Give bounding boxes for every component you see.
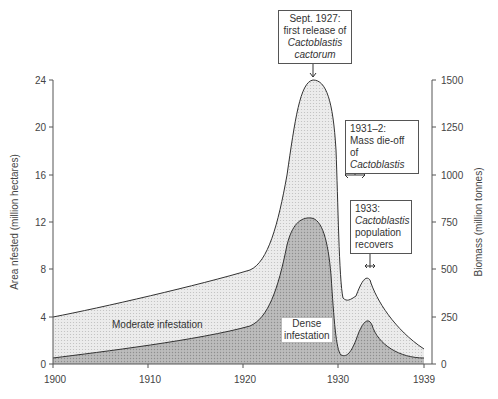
- release-line-1: Sept. 1927:: [283, 13, 347, 25]
- dieoff-annotation: 1931–2: Mass die-off of Cactoblastis: [345, 120, 419, 174]
- x-tick-1920: 1920: [234, 374, 257, 385]
- dieoff-line-2: Mass die-off: [350, 135, 414, 147]
- dense-label-line-1: Dense: [284, 318, 330, 330]
- release-line-2: first release of: [283, 25, 347, 37]
- y-tick-0: 0: [40, 359, 46, 370]
- y2-tick-750: 750: [441, 217, 458, 228]
- y2-tick-1000: 1000: [441, 170, 464, 181]
- recovery-arrow: [365, 253, 375, 268]
- x-tick-1930: 1930: [327, 374, 350, 385]
- recovery-line-2: Cactoblastis: [355, 215, 407, 227]
- release-line-4: cactorum: [283, 49, 347, 61]
- dieoff-line-3-italic: Cactoblastis: [350, 159, 404, 170]
- y2-tick-0: 0: [441, 359, 447, 370]
- right-axis-title: Biomass (million tonnes): [473, 168, 484, 277]
- recovery-line-4: recovers: [355, 239, 407, 251]
- dieoff-line-1: 1931–2:: [350, 123, 414, 135]
- release-annotation: Sept. 1927: first release of Cactoblasti…: [278, 10, 352, 64]
- moderate-infestation-label: Moderate infestation: [112, 319, 203, 331]
- recovery-annotation: 1933: Cactoblastis population recovers: [350, 200, 412, 254]
- y2-tick-250: 250: [441, 312, 458, 323]
- y-tick-12: 12: [35, 217, 47, 228]
- x-tick-1939: 1939: [413, 374, 436, 385]
- y2-tick-500: 500: [441, 264, 458, 275]
- y-tick-24: 24: [35, 75, 47, 86]
- x-tick-1900: 1900: [44, 374, 67, 385]
- y-tick-4: 4: [40, 312, 46, 323]
- release-arrow: [310, 62, 316, 77]
- chart-canvas: 24 20 16 12 8 4 0 1500 1250 1000 750 500…: [0, 0, 498, 399]
- dieoff-line-3-prefix: of: [350, 147, 358, 158]
- y2-tick-1250: 1250: [441, 122, 464, 133]
- recovery-line-3: population: [355, 227, 407, 239]
- right-y-axis: [432, 80, 436, 364]
- x-axis: [53, 364, 432, 368]
- release-line-3: Cactoblastis: [283, 37, 347, 49]
- dense-label-line-2: infestation: [284, 330, 330, 342]
- left-axis-title: Area nfested (million hectares): [9, 154, 20, 290]
- x-tick-1910: 1910: [139, 374, 162, 385]
- recovery-line-1: 1933:: [355, 203, 407, 215]
- y2-tick-1500: 1500: [441, 75, 464, 86]
- y-tick-8: 8: [40, 264, 46, 275]
- y-tick-16: 16: [35, 170, 47, 181]
- left-y-axis: [49, 80, 53, 364]
- dieoff-line-3: of Cactoblastis: [350, 147, 414, 171]
- y-tick-20: 20: [35, 122, 47, 133]
- dense-infestation-label: Dense infestation: [282, 318, 332, 342]
